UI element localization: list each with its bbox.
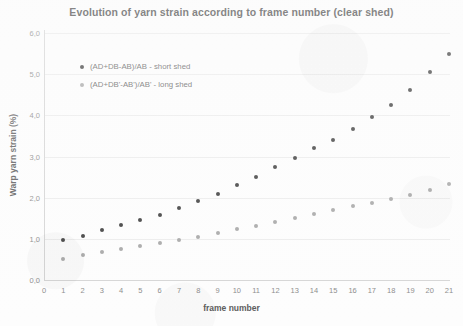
x-tick-label: 20 bbox=[420, 286, 440, 295]
data-point bbox=[447, 182, 451, 186]
data-point bbox=[196, 199, 200, 203]
x-tick-label: 17 bbox=[362, 286, 382, 295]
x-tick-label: 19 bbox=[400, 286, 420, 295]
data-point bbox=[351, 127, 355, 131]
x-axis-label: frame number bbox=[0, 303, 463, 313]
legend-label: (AD+DB-AB)/AB - short shed bbox=[90, 62, 190, 71]
y-axis-ticks: 0,01,02,03,04,05,06,0 bbox=[0, 0, 40, 326]
data-point bbox=[370, 115, 374, 119]
x-tick-label: 8 bbox=[188, 286, 208, 295]
data-point bbox=[177, 206, 181, 210]
legend-marker-icon bbox=[80, 83, 84, 87]
data-point bbox=[312, 212, 316, 216]
y-tick-label: 5,0 bbox=[2, 70, 40, 79]
x-tick-label: 16 bbox=[343, 286, 363, 295]
data-point bbox=[119, 223, 123, 227]
data-point bbox=[312, 146, 316, 150]
data-point bbox=[177, 238, 181, 242]
x-tick-label: 4 bbox=[111, 286, 131, 295]
data-point bbox=[293, 216, 297, 220]
chart-figure: Evolution of yarn strain according to fr… bbox=[0, 0, 463, 326]
data-point bbox=[293, 156, 297, 160]
data-point bbox=[235, 183, 239, 187]
data-point bbox=[273, 165, 277, 169]
data-point bbox=[196, 235, 200, 239]
data-point bbox=[351, 204, 355, 208]
x-tick-label: 5 bbox=[130, 286, 150, 295]
data-point bbox=[389, 103, 393, 107]
legend-item: (AD+DB-AB)/AB - short shed bbox=[80, 62, 192, 71]
data-point bbox=[138, 218, 142, 222]
y-tick-label: 1,0 bbox=[2, 234, 40, 243]
data-point bbox=[216, 231, 220, 235]
data-point bbox=[158, 213, 162, 217]
x-tick-label: 21 bbox=[439, 286, 459, 295]
x-tick-label: 7 bbox=[169, 286, 189, 295]
y-axis-label: Warp yarn strain (%) bbox=[8, 95, 18, 215]
data-point bbox=[254, 224, 258, 228]
data-point bbox=[61, 238, 65, 242]
y-tick-label: 0,0 bbox=[2, 276, 40, 285]
x-tick-label: 6 bbox=[150, 286, 170, 295]
data-point bbox=[273, 220, 277, 224]
data-point bbox=[331, 138, 335, 142]
x-tick-label: 10 bbox=[227, 286, 247, 295]
data-point bbox=[119, 247, 123, 251]
data-point bbox=[447, 52, 451, 56]
data-point bbox=[428, 70, 432, 74]
data-point bbox=[81, 253, 85, 257]
x-tick-label: 2 bbox=[73, 286, 93, 295]
data-point bbox=[100, 250, 104, 254]
x-tick-label: 11 bbox=[246, 286, 266, 295]
data-point bbox=[100, 228, 104, 232]
x-tick-label: 12 bbox=[265, 286, 285, 295]
x-tick-label: 3 bbox=[92, 286, 112, 295]
data-point bbox=[331, 208, 335, 212]
data-point bbox=[158, 241, 162, 245]
chart-legend: (AD+DB-AB)/AB - short shed(AD+DB'-AB')/A… bbox=[80, 62, 192, 98]
data-point bbox=[235, 227, 239, 231]
data-point bbox=[216, 192, 220, 196]
x-tick-label: 9 bbox=[208, 286, 228, 295]
legend-label: (AD+DB'-AB')/AB' - long shed bbox=[90, 80, 192, 89]
data-point bbox=[428, 188, 432, 192]
x-tick-label: 18 bbox=[381, 286, 401, 295]
x-tick-label: 15 bbox=[323, 286, 343, 295]
x-tick-label: 1 bbox=[53, 286, 73, 295]
data-point bbox=[370, 201, 374, 205]
data-point bbox=[138, 244, 142, 248]
data-point bbox=[389, 197, 393, 201]
legend-marker-icon bbox=[80, 65, 84, 69]
data-point bbox=[81, 234, 85, 238]
chart-title: Evolution of yarn strain according to fr… bbox=[0, 6, 463, 18]
data-point bbox=[408, 193, 412, 197]
x-tick-label: 13 bbox=[285, 286, 305, 295]
x-tick-label: 0 bbox=[34, 286, 54, 295]
data-point bbox=[408, 88, 412, 92]
legend-item: (AD+DB'-AB')/AB' - long shed bbox=[80, 80, 192, 89]
data-point bbox=[61, 257, 65, 261]
y-tick-label: 6,0 bbox=[2, 29, 40, 38]
x-tick-label: 14 bbox=[304, 286, 324, 295]
x-axis-line bbox=[44, 280, 450, 281]
data-point bbox=[254, 175, 258, 179]
